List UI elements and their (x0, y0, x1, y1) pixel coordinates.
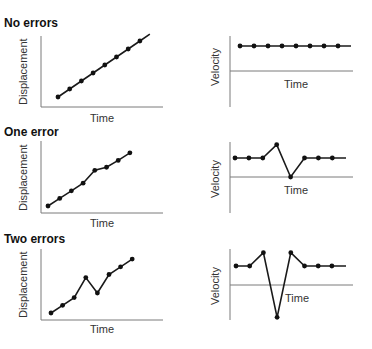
data-point-displacement-3-4 (83, 275, 88, 280)
data-point-velocity-3-5 (288, 250, 293, 255)
data-point-velocity-1-2 (252, 44, 257, 49)
data-point-velocity-2-4 (274, 142, 279, 147)
data-point-velocity-2-5 (288, 175, 293, 180)
data-point-velocity-3-3 (261, 250, 266, 255)
panel-title-two-errors: Two errors (4, 232, 65, 246)
ylabel-velocity-1: Velocity (209, 48, 221, 86)
data-point-velocity-1-3 (266, 44, 271, 49)
data-point-displacement-1-5 (102, 63, 107, 68)
ylabel-velocity-2: Velocity (209, 160, 221, 198)
data-point-velocity-1-1 (238, 44, 243, 49)
xlabel-time-vel-1: Time (284, 78, 308, 90)
data-point-displacement-3-3 (72, 295, 77, 300)
data-point-displacement-3-2 (60, 303, 65, 308)
data-point-velocity-3-6 (302, 264, 307, 269)
data-point-displacement-1-4 (91, 71, 96, 76)
data-point-velocity-1-5 (294, 44, 299, 49)
xlabel-time-disp-3: Time (90, 323, 114, 335)
data-point-velocity-2-1 (233, 156, 238, 161)
data-point-velocity-3-2 (247, 264, 252, 269)
data-point-displacement-1-2 (67, 87, 72, 92)
data-point-velocity-2-3 (260, 156, 265, 161)
ylabel-velocity-3: Velocity (209, 267, 221, 305)
ylabel-displacement-2: Displacement (17, 144, 29, 211)
data-point-displacement-3-5 (95, 291, 100, 296)
data-point-velocity-1-8 (336, 44, 341, 49)
data-point-displacement-3-6 (107, 272, 112, 277)
data-point-displacement-1-3 (79, 79, 84, 84)
data-point-displacement-2-2 (57, 196, 62, 201)
data-point-displacement-1-8 (138, 39, 143, 44)
data-point-displacement-2-3 (69, 188, 74, 193)
data-point-velocity-3-1 (234, 264, 239, 269)
data-point-velocity-3-8 (330, 264, 335, 269)
data-point-displacement-1-7 (126, 47, 131, 52)
data-point-velocity-1-6 (308, 44, 313, 49)
data-point-velocity-1-4 (280, 44, 285, 49)
xlabel-time-vel-2: Time (284, 184, 308, 196)
panel-title-no-errors: No errors (4, 16, 58, 30)
xlabel-time-vel-3: Time (285, 292, 309, 304)
data-point-displacement-3-1 (49, 311, 54, 316)
data-point-velocity-3-7 (316, 264, 321, 269)
data-point-displacement-1-6 (114, 55, 119, 60)
data-point-displacement-2-1 (46, 204, 51, 209)
data-point-velocity-2-2 (247, 156, 252, 161)
data-point-velocity-2-8 (330, 156, 335, 161)
data-point-displacement-2-4 (81, 181, 86, 186)
data-point-velocity-2-6 (302, 156, 307, 161)
xlabel-time-disp-1: Time (90, 112, 114, 124)
data-point-displacement-3-7 (118, 264, 123, 269)
panel-title-one-error: One error (4, 125, 59, 139)
data-point-displacement-3-8 (130, 257, 135, 262)
error-diagram: No errors One error Two errors Displacem… (0, 0, 372, 349)
data-point-displacement-2-5 (92, 168, 97, 173)
xlabel-time-disp-2: Time (90, 217, 114, 229)
data-point-displacement-2-6 (104, 165, 109, 170)
series-line-velocity-2 (235, 145, 346, 177)
data-point-displacement-1-1 (56, 95, 61, 100)
data-point-velocity-3-4 (275, 315, 280, 320)
data-point-displacement-2-7 (116, 158, 121, 163)
data-point-velocity-2-7 (316, 156, 321, 161)
data-point-displacement-2-8 (127, 150, 132, 155)
ylabel-displacement-3: Displacement (17, 251, 29, 318)
ylabel-displacement-1: Displacement (17, 38, 29, 105)
data-point-velocity-1-7 (322, 44, 327, 49)
